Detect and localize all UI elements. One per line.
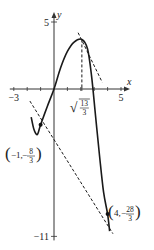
y-axis-label: y [56, 9, 62, 20]
y-tick-label: 5 [44, 17, 49, 28]
x-axis-label: x [126, 76, 132, 87]
point-label-left: (−1,−83) [5, 144, 42, 165]
x-tick-label: 5 [119, 92, 124, 103]
label-numerator: 28 [126, 205, 134, 214]
sqrt-annotation: √133 [70, 87, 90, 117]
label-denominator: 3 [29, 156, 33, 165]
label-denominator: 3 [128, 214, 132, 223]
series-lines [30, 33, 113, 234]
label-close-paren: ) [135, 202, 141, 221]
y-tick-label: −11 [34, 231, 49, 242]
chart: −355−11xy(−1,−83)(4,−283)√133 [0, 0, 154, 250]
y-axis-arrow [52, 12, 57, 18]
label-numerator: 8 [29, 147, 33, 156]
label-sign: − [22, 150, 27, 160]
series-curve [31, 39, 109, 231]
x-tick-label: −3 [8, 92, 19, 103]
sqrt-denominator: 3 [82, 108, 86, 117]
point-label-right: (4,−283) [108, 202, 141, 223]
sqrt-numerator: 13 [81, 99, 89, 108]
data-point [39, 123, 43, 127]
label-x-value: 4, [114, 208, 121, 218]
label-close-paren: ) [36, 144, 42, 163]
sqrt-symbol: √ [70, 100, 78, 115]
x-axis-arrow [124, 87, 130, 92]
